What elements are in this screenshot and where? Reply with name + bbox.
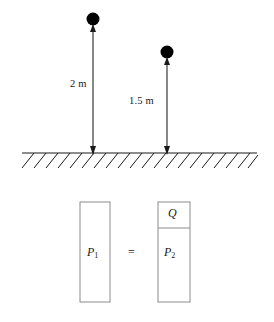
ball-left-icon — [87, 13, 100, 26]
box-label-q: Q — [168, 207, 177, 219]
ground-hatch-marks — [22, 153, 258, 168]
ground-hatched-line — [22, 153, 258, 168]
box-label-p1-subscript: 1 — [94, 251, 98, 260]
equals-operator: = — [128, 246, 135, 258]
box-label-p1: P1 — [87, 246, 98, 260]
physics-diagram — [0, 0, 274, 322]
dimension-label-left: 2 m — [70, 79, 87, 90]
arrowhead-down-left-icon — [90, 146, 96, 155]
box-label-p2-subscript: 2 — [171, 251, 175, 260]
measurement-left — [87, 13, 100, 156]
measurement-right — [161, 46, 174, 156]
box-label-p2: P2 — [164, 246, 175, 260]
ball-right-icon — [161, 46, 174, 59]
dimension-label-right: 1.5 m — [129, 96, 154, 107]
